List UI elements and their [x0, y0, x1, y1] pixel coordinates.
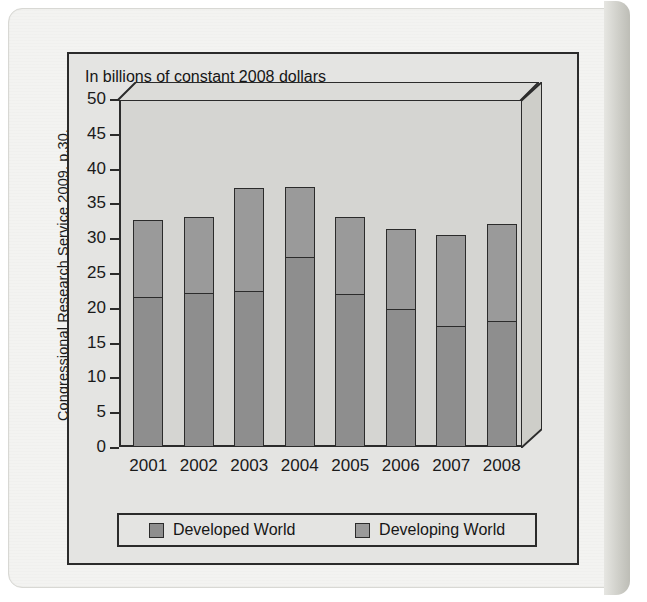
y-axis-tick-label: 15: [87, 333, 106, 353]
y-axis-tick: [110, 238, 119, 240]
screenshot-root: Congressional Research Service 2009, p.3…: [0, 0, 647, 602]
y-axis-tick: [110, 343, 119, 345]
x-axis-tick-label: 2006: [382, 456, 420, 476]
stacked-bar[interactable]: [335, 217, 365, 447]
bar-slot: 2005: [335, 99, 365, 447]
y-axis-tick-label: 0: [97, 437, 106, 457]
chart-container: In billions of constant 2008 dollars 051…: [67, 52, 579, 565]
bar-segment-developed: [185, 293, 213, 446]
x-axis-tick-label: 2003: [230, 456, 268, 476]
y-axis-tick: [110, 377, 119, 379]
plot-area: 05101520253035404550 2001200220032004200…: [119, 99, 523, 447]
legend-label-developing: Developing World: [379, 521, 505, 539]
legend-swatch-developing-icon: [355, 523, 370, 538]
y-axis-tick-label: 35: [87, 193, 106, 213]
y-axis-tick: [110, 99, 119, 101]
bar-segment-developed: [437, 326, 465, 446]
stacked-bar[interactable]: [234, 188, 264, 447]
bar-segment-developed: [134, 297, 162, 446]
legend-item-developed: Developed World: [149, 521, 295, 539]
y-axis-tick: [110, 203, 119, 205]
y-axis-tick: [110, 273, 119, 275]
stacked-bar[interactable]: [285, 187, 315, 447]
stacked-bar[interactable]: [386, 229, 416, 447]
legend-item-developing: Developing World: [355, 521, 505, 539]
x-axis-tick-label: 2002: [180, 456, 218, 476]
chart-right-bevel: [521, 82, 542, 448]
x-axis-tick-label: 2001: [129, 456, 167, 476]
y-axis-tick-label: 10: [87, 367, 106, 387]
scanned-page-frame: Congressional Research Service 2009, p.3…: [8, 8, 623, 588]
y-axis-tick: [110, 308, 119, 310]
y-axis-tick: [110, 447, 119, 449]
y-axis-tick-label: 20: [87, 298, 106, 318]
y-axis-tick: [110, 134, 119, 136]
bar-slot: 2004: [285, 99, 315, 447]
bar-slot: 2001: [133, 99, 163, 447]
y-axis-tick-label: 50: [87, 89, 106, 109]
bar-slot: 2003: [234, 99, 264, 447]
x-axis-tick-label: 2008: [483, 456, 521, 476]
legend-label-developed: Developed World: [173, 521, 295, 539]
y-axis-tick-label: 30: [87, 228, 106, 248]
bar-slot: 2007: [436, 99, 466, 447]
y-axis-tick-label: 25: [87, 263, 106, 283]
x-axis-tick-label: 2007: [432, 456, 470, 476]
stacked-bar[interactable]: [184, 217, 214, 447]
stacked-bar[interactable]: [133, 220, 163, 447]
y-axis-tick-label: 40: [87, 159, 106, 179]
stacked-bar[interactable]: [487, 224, 517, 447]
bar-slot: 2006: [386, 99, 416, 447]
bar-segment-developed: [286, 257, 314, 446]
y-axis-tick: [110, 412, 119, 414]
y-axis-tick: [110, 169, 119, 171]
legend-swatch-developed-icon: [149, 523, 164, 538]
bar-segment-developed: [235, 291, 263, 446]
y-axis-tick-label: 45: [87, 124, 106, 144]
y-axis-tick-label: 5: [97, 402, 106, 422]
bar-slot: 2008: [487, 99, 517, 447]
stacked-bar[interactable]: [436, 235, 466, 447]
x-axis-tick-label: 2005: [331, 456, 369, 476]
x-axis-tick-label: 2004: [281, 456, 319, 476]
bar-segment-developed: [387, 309, 415, 446]
bars-layer: 20012002200320042005200620072008: [119, 99, 523, 447]
bar-segment-developed: [488, 321, 516, 446]
chart-legend: Developed World Developing World: [117, 513, 537, 547]
bar-slot: 2002: [184, 99, 214, 447]
bar-segment-developed: [336, 294, 364, 446]
